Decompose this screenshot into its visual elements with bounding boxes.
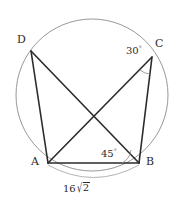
vertex-label-c: C — [155, 38, 163, 49]
radicand-value: 2 — [83, 182, 90, 193]
angle-label-at-c: 30° — [126, 45, 142, 56]
angle-arc-at-c — [140, 70, 150, 74]
degree-symbol-c: ° — [139, 44, 142, 51]
angle-label-at-b: 45° — [101, 148, 117, 159]
radical-sign: √ — [77, 181, 82, 194]
vertex-label-d: D — [17, 34, 26, 45]
vertex-label-b: B — [146, 156, 154, 167]
square-root-expression: √2 — [76, 183, 90, 194]
dimension-label-ab: 16√2 — [63, 183, 90, 194]
degree-symbol-b: ° — [114, 147, 117, 154]
angle-value-b: 45 — [101, 148, 114, 159]
diagonal-db — [31, 51, 139, 163]
dimension-coefficient: 16 — [63, 183, 76, 194]
geometry-figure: A B C D 30° 45° 16√2 — [0, 0, 186, 210]
diagonal-ac — [48, 57, 152, 163]
angle-value-c: 30 — [126, 45, 139, 56]
geometry-canvas — [0, 0, 186, 210]
vertex-label-a: A — [31, 156, 39, 167]
side-da — [31, 51, 48, 163]
circumcircle — [16, 19, 168, 171]
